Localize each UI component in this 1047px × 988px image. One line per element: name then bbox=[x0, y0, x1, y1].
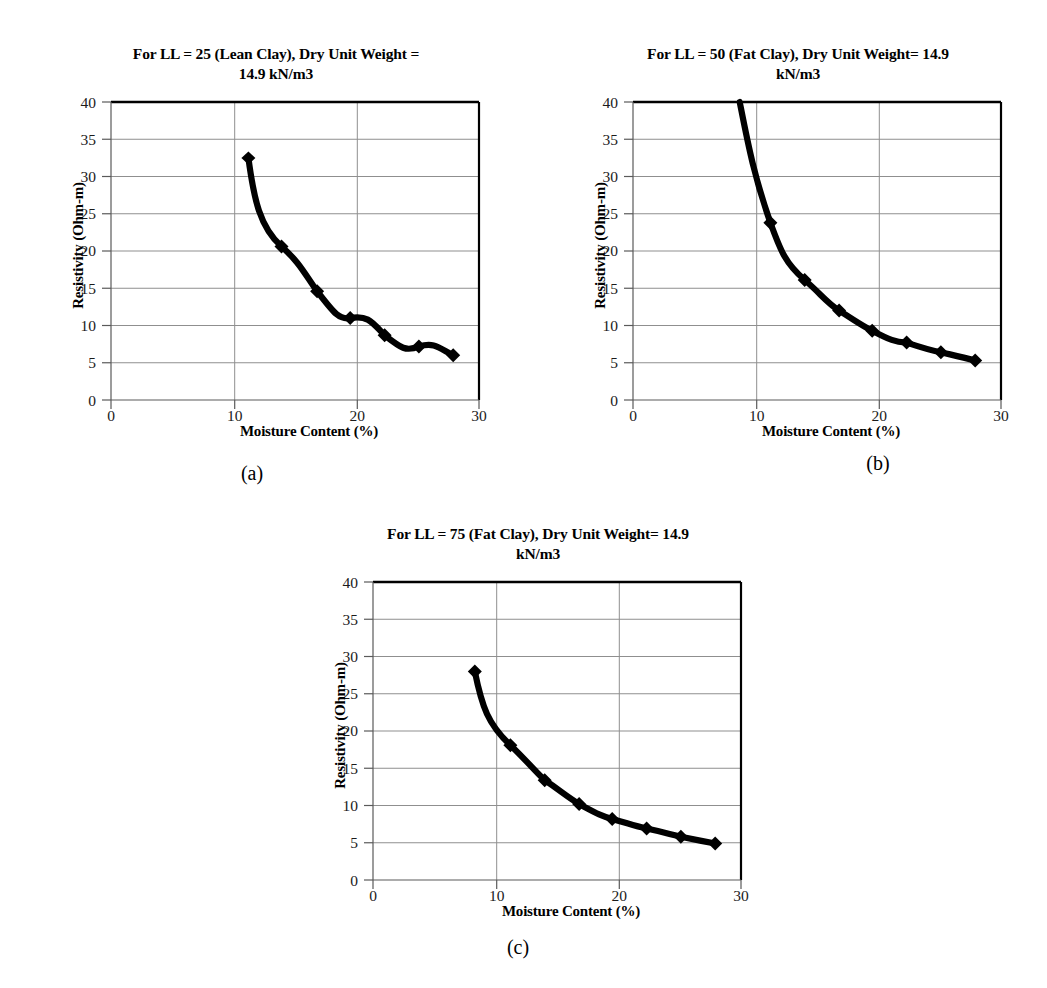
y-tick-0: 0 bbox=[610, 392, 618, 409]
y-tick-35: 35 bbox=[343, 611, 359, 628]
x-tick-10: 10 bbox=[489, 887, 505, 902]
panel-b-title-line1: For LL = 50 (Fat Clay), Dry Unit Weight=… bbox=[647, 45, 949, 62]
x-tick-10: 10 bbox=[749, 407, 765, 422]
panel-a-title-line2: 14.9 kN/m3 bbox=[239, 65, 313, 82]
panel-c-plot: 40 35 30 25 20 15 10 5 0 0 10 20 30 bbox=[318, 572, 758, 902]
panel-a-title: For LL = 25 (Lean Clay), Dry Unit Weight… bbox=[56, 44, 496, 84]
y-tick-35: 35 bbox=[81, 131, 97, 148]
panel-c-x-ticks bbox=[373, 880, 741, 889]
panel-b-x-ticks bbox=[633, 400, 1001, 409]
y-tick-40: 40 bbox=[603, 94, 619, 111]
x-tick-0: 0 bbox=[629, 407, 637, 422]
x-tick-20: 20 bbox=[612, 887, 628, 902]
panel-a: For LL = 25 (Lean Clay), Dry Unit Weight… bbox=[56, 44, 496, 464]
panel-b-xlabel: Moisture Content (%) bbox=[611, 423, 1047, 440]
panel-b-x-tick-labels: 0 10 20 30 bbox=[629, 407, 1009, 422]
panel-b-y-ticks bbox=[624, 102, 633, 400]
x-tick-20: 20 bbox=[350, 407, 366, 422]
y-tick-5: 5 bbox=[88, 354, 96, 371]
panel-a-data-markers bbox=[241, 151, 460, 362]
panel-c: For LL = 75 (Fat Clay), Dry Unit Weight=… bbox=[318, 524, 758, 944]
y-tick-40: 40 bbox=[343, 574, 359, 591]
panel-b-plot: 40 35 30 25 20 15 10 5 0 0 10 20 30 bbox=[578, 92, 1018, 422]
x-tick-0: 0 bbox=[107, 407, 115, 422]
panel-b-data-markers bbox=[763, 216, 982, 368]
y-tick-35: 35 bbox=[603, 131, 619, 148]
panel-b-data-line bbox=[740, 102, 976, 361]
panel-c-xlabel: Moisture Content (%) bbox=[351, 903, 791, 920]
x-tick-30: 30 bbox=[471, 407, 487, 422]
panel-a-x-ticks bbox=[111, 400, 479, 409]
y-tick-40: 40 bbox=[81, 94, 97, 111]
panel-c-x-tick-labels: 0 10 20 30 bbox=[369, 887, 749, 902]
x-tick-30: 30 bbox=[733, 887, 749, 902]
panel-a-caption: (a) bbox=[212, 462, 292, 485]
panel-a-y-ticks bbox=[102, 102, 111, 400]
panel-c-chart-svg: 40 35 30 25 20 15 10 5 0 0 10 20 30 bbox=[318, 572, 758, 902]
panel-a-plot: 40 35 30 25 20 15 10 5 0 0 10 20 30 bbox=[56, 92, 496, 422]
panel-a-xlabel: Moisture Content (%) bbox=[89, 423, 529, 440]
panel-c-data-markers bbox=[468, 664, 722, 850]
panel-a-gridlines bbox=[111, 102, 479, 400]
panel-c-y-ticks bbox=[364, 582, 373, 880]
x-tick-0: 0 bbox=[369, 887, 377, 902]
figure-root: For LL = 25 (Lean Clay), Dry Unit Weight… bbox=[0, 0, 1047, 988]
panel-b-title-line2: kN/m3 bbox=[776, 65, 820, 82]
x-tick-20: 20 bbox=[872, 407, 888, 422]
panel-a-ylabel: Resistivity (Ohm-m) bbox=[70, 161, 87, 331]
y-tick-0: 0 bbox=[88, 392, 96, 409]
y-tick-0: 0 bbox=[350, 872, 358, 889]
x-tick-30: 30 bbox=[993, 407, 1009, 422]
x-tick-10: 10 bbox=[227, 407, 243, 422]
panel-b: For LL = 50 (Fat Clay), Dry Unit Weight=… bbox=[578, 44, 1018, 464]
panel-a-x-tick-labels: 0 10 20 30 bbox=[107, 407, 487, 422]
panel-b-title: For LL = 50 (Fat Clay), Dry Unit Weight=… bbox=[578, 44, 1018, 84]
panel-c-data-line bbox=[475, 671, 715, 843]
panel-b-ylabel: Resistivity (Ohm-m) bbox=[592, 161, 609, 331]
panel-a-chart-svg: 40 35 30 25 20 15 10 5 0 0 10 20 30 bbox=[56, 92, 496, 422]
panel-c-title-line2: kN/m3 bbox=[516, 545, 560, 562]
y-tick-5: 5 bbox=[350, 834, 358, 851]
panel-b-chart-svg: 40 35 30 25 20 15 10 5 0 0 10 20 30 bbox=[578, 92, 1018, 422]
panel-c-title: For LL = 75 (Fat Clay), Dry Unit Weight=… bbox=[318, 524, 758, 564]
panel-a-title-line1: For LL = 25 (Lean Clay), Dry Unit Weight… bbox=[133, 45, 419, 62]
panel-c-caption: (c) bbox=[478, 936, 558, 959]
panel-c-ylabel: Resistivity (Ohm-m) bbox=[332, 641, 349, 811]
panel-b-caption: (b) bbox=[838, 452, 918, 475]
y-tick-5: 5 bbox=[610, 354, 618, 371]
panel-c-title-line1: For LL = 75 (Fat Clay), Dry Unit Weight=… bbox=[387, 525, 689, 542]
